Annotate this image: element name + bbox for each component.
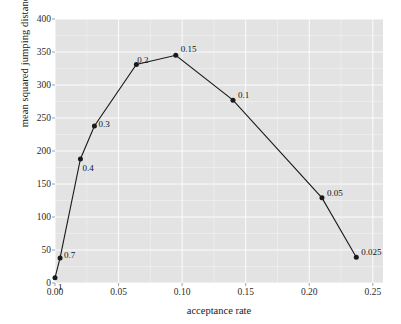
point-label-0.2: 0.2 xyxy=(137,55,148,65)
point-label-0.7: 0.7 xyxy=(64,250,75,260)
point-label-0.025: 0.025 xyxy=(361,247,381,257)
chart-figure: 050100150200250300350400 0.000.050.100.1… xyxy=(0,0,401,324)
y-axis-title: mean squared jumping distance xyxy=(19,0,30,180)
x-axis-title: acceptance rate xyxy=(55,305,383,316)
point-label-0.1: 0.1 xyxy=(238,90,249,100)
data-series-layer xyxy=(0,0,401,324)
point-label-0.15: 0.15 xyxy=(181,44,197,54)
point-label-0.4: 0.4 xyxy=(82,163,93,173)
point-label-0.05: 0.05 xyxy=(327,188,343,198)
point-label-1: 1 xyxy=(58,282,63,292)
point-label-0.3: 0.3 xyxy=(98,119,109,129)
